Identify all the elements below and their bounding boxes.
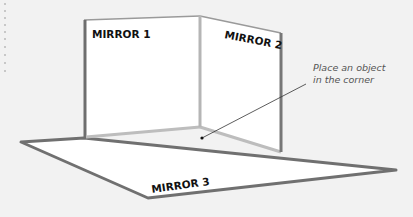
three-mirror-diagram: MIRROR 1 MIRROR 2 MIRROR 3 Place an obje… xyxy=(0,0,413,217)
annotation-line-1: Place an object xyxy=(313,62,387,73)
margin-dots xyxy=(4,3,6,72)
annotation-line-2: in the corner xyxy=(313,74,375,85)
mirror-1-label: MIRROR 1 xyxy=(92,28,151,40)
corner-object-dot xyxy=(200,136,203,139)
mirror-3-floor xyxy=(21,138,396,198)
